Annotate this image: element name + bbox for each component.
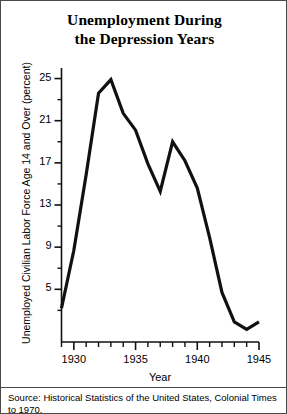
x-tick-label: 1940 (175, 353, 219, 365)
chart-figure: Unemployment During the Depression Years… (0, 0, 287, 414)
source-note: Source: Historical Statistics of the Uni… (8, 392, 282, 414)
y-tick-label: 17 (26, 155, 52, 167)
y-tick-label: 5 (26, 281, 52, 293)
axis-lines (61, 68, 259, 343)
y-axis-ticks (55, 79, 62, 311)
footer-divider (1, 387, 287, 388)
x-tick-label: 1945 (237, 353, 281, 365)
x-tick-label: 1935 (114, 353, 158, 365)
y-tick-label: 9 (26, 239, 52, 251)
x-tick-label: 1930 (52, 353, 96, 365)
y-tick-label: 21 (26, 113, 52, 125)
x-axis-ticks (62, 342, 260, 350)
y-tick-label: 25 (26, 71, 52, 83)
unemployment-line (62, 80, 260, 330)
y-tick-label: 13 (26, 197, 52, 209)
